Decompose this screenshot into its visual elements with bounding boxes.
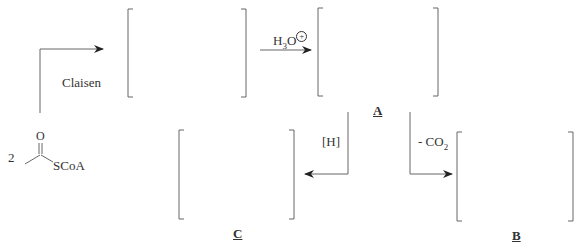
bracket-A-right xyxy=(433,8,438,96)
bracket-intermediate-left xyxy=(128,9,133,97)
reduction-reagent: [H] xyxy=(322,134,340,150)
acetyl-bond-sulfur xyxy=(41,155,53,162)
bracket-A-left xyxy=(318,8,323,96)
thioester-coa: SCoA xyxy=(53,158,85,174)
hydrolysis-reagent: H3O+ xyxy=(273,31,307,51)
claisen-label: Claisen xyxy=(62,75,101,91)
decarboxylation-reagent: - CO2 xyxy=(418,134,448,152)
bracket-intermediate-right xyxy=(241,9,246,97)
bracket-C-right xyxy=(289,130,294,219)
bracket-C-left xyxy=(179,130,184,219)
compound-label-C: C xyxy=(233,226,242,242)
compound-label-A: A xyxy=(373,103,382,119)
carbonyl-oxygen: O xyxy=(36,129,45,144)
bracket-B-right xyxy=(568,132,573,221)
stoichiometric-coefficient: 2 xyxy=(8,150,15,166)
positive-charge-icon: + xyxy=(296,31,307,42)
compound-label-B: B xyxy=(512,228,521,244)
acetyl-bond-methyl xyxy=(25,155,40,164)
bracket-B-left xyxy=(457,132,462,221)
